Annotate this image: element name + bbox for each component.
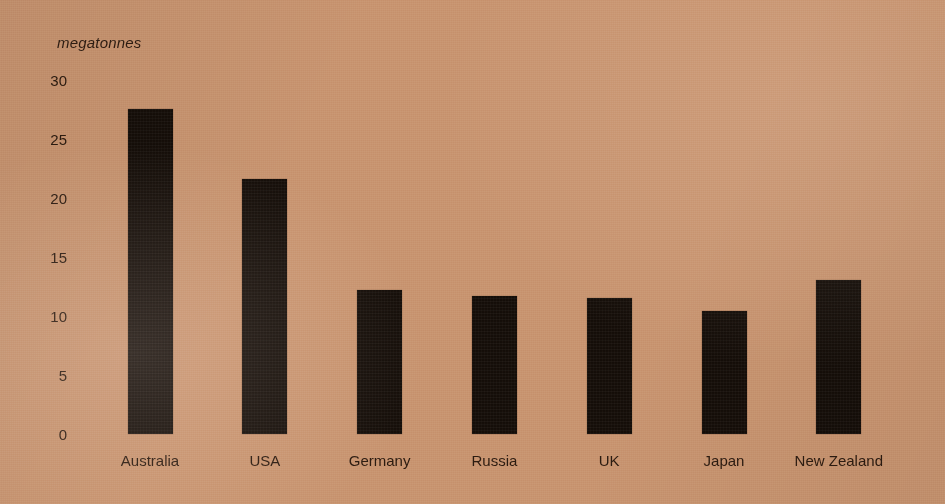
- y-axis-tick-label: 0: [21, 426, 67, 443]
- y-axis-tick-label: 30: [21, 71, 67, 88]
- bar-chart: megatonnes 302520151050 AustraliaUSAGerm…: [0, 0, 945, 504]
- y-axis-tick-label: 5: [21, 366, 67, 383]
- y-axis-title: megatonnes: [57, 34, 142, 51]
- y-axis-tick-label: 20: [21, 189, 67, 206]
- bar: [702, 311, 747, 434]
- plot-area: [0, 0, 945, 504]
- x-axis-tick-label: USA: [249, 452, 280, 469]
- x-axis-tick-label: Australia: [121, 452, 179, 469]
- x-axis-tick-label: Japan: [704, 452, 745, 469]
- bar: [128, 109, 173, 434]
- bar: [472, 296, 517, 434]
- x-axis-tick-label: New Zealand: [795, 452, 883, 469]
- x-axis-tick-label: Germany: [349, 452, 411, 469]
- y-axis-tick-label: 10: [21, 307, 67, 324]
- y-axis-tick-label: 25: [21, 130, 67, 147]
- bar: [357, 290, 402, 434]
- bar: [587, 298, 632, 434]
- x-axis-tick-label: Russia: [471, 452, 517, 469]
- y-axis-tick-label: 15: [21, 248, 67, 265]
- bar: [242, 179, 287, 434]
- x-axis-tick-label: UK: [599, 452, 620, 469]
- bar: [816, 280, 861, 434]
